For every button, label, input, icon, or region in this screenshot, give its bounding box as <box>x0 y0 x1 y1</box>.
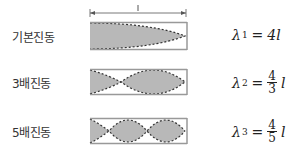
formula-fundamental: λ1 = 4l <box>232 27 281 43</box>
label-fundamental: 기본진동 <box>12 28 54 45</box>
length-dimension <box>90 5 186 17</box>
formula-value: 4l <box>267 27 280 43</box>
equals: = <box>252 27 264 43</box>
formula-3rd-harmonic: λ2 = 43 l <box>232 70 285 95</box>
lambda-symbol: λ <box>232 75 241 91</box>
tube-3rd-harmonic <box>90 69 187 95</box>
equals: = <box>252 124 264 140</box>
denominator: 5 <box>268 132 276 144</box>
tube-fundamental <box>90 22 187 50</box>
label-3rd-harmonic: 3배진동 <box>12 74 51 91</box>
subscript: 3 <box>242 127 248 137</box>
lambda-symbol: λ <box>232 27 241 43</box>
subscript: 2 <box>242 78 248 88</box>
length-var: l <box>281 124 285 140</box>
denominator: 3 <box>268 83 276 95</box>
fraction: 43 <box>267 70 277 95</box>
subscript: 1 <box>242 30 248 40</box>
label-5th-harmonic: 5배진동 <box>12 123 51 140</box>
fraction: 45 <box>267 119 277 144</box>
tube-5th-harmonic <box>90 118 187 144</box>
lambda-symbol: λ <box>232 124 241 140</box>
equals: = <box>252 75 264 91</box>
length-var: l <box>281 75 285 91</box>
formula-5th-harmonic: λ3 = 45 l <box>232 119 285 144</box>
